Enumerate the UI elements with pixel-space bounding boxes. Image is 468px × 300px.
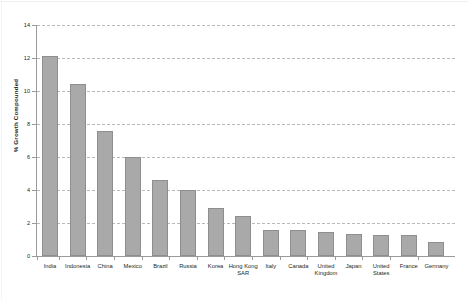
y-tick-label-4: 4 xyxy=(12,187,30,193)
bar xyxy=(373,235,389,256)
y-tick-label-12: 12 xyxy=(12,55,30,61)
y-tick-label-10: 10 xyxy=(12,88,30,94)
x-axis-labels-group: IndiaIndonesiaChinaMexicoBrazilRussiaKor… xyxy=(37,263,455,293)
x-tick xyxy=(307,257,308,260)
x-tick xyxy=(280,257,281,260)
bar xyxy=(346,234,362,256)
x-tick xyxy=(224,257,225,260)
figure-caption-clipped xyxy=(128,294,358,300)
bar xyxy=(152,180,168,256)
bar xyxy=(97,131,113,256)
scan-artifact-top-edge xyxy=(0,1,468,2)
x-tick xyxy=(169,257,170,260)
bar xyxy=(235,216,251,256)
x-axis-ticks-group xyxy=(37,257,455,261)
bar xyxy=(180,190,196,256)
y-tick-label-6: 6 xyxy=(12,154,30,160)
y-tick-label-14: 14 xyxy=(12,22,30,28)
bar xyxy=(208,208,224,256)
bar xyxy=(263,230,279,256)
x-tick xyxy=(114,257,115,260)
x-tick xyxy=(362,257,363,260)
x-tick xyxy=(86,257,87,260)
bars-group xyxy=(37,25,455,256)
y-tick-label-0: 0 xyxy=(12,253,30,259)
x-tick xyxy=(197,257,198,260)
x-tick xyxy=(142,257,143,260)
scan-artifact-left-edge xyxy=(1,0,2,300)
x-tick xyxy=(335,257,336,260)
bar xyxy=(290,230,306,256)
y-axis-title: % Growth Compounded xyxy=(12,51,19,181)
bar xyxy=(318,232,334,256)
bar xyxy=(125,157,141,256)
y-tick-label-2: 2 xyxy=(12,220,30,226)
plot-area xyxy=(37,25,455,256)
x-axis-label: Germany xyxy=(419,263,453,270)
bar xyxy=(42,56,58,256)
x-tick xyxy=(37,257,38,260)
bar-chart-figure: % Growth Compounded 02468101214 IndiaInd… xyxy=(0,0,468,300)
y-tick-label-8: 8 xyxy=(12,121,30,127)
x-tick xyxy=(252,257,253,260)
bar xyxy=(70,84,86,256)
x-tick xyxy=(390,257,391,260)
bar xyxy=(428,242,444,256)
x-tick xyxy=(418,257,419,260)
bar xyxy=(401,235,417,256)
x-tick xyxy=(59,257,60,260)
